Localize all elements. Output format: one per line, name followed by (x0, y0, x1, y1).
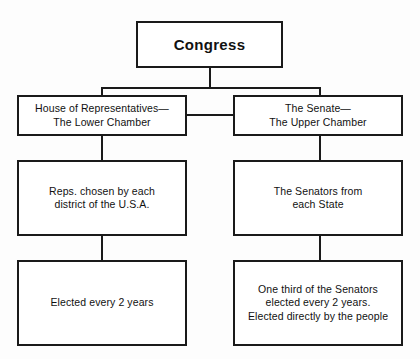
connector-branch-bar (101, 87, 321, 89)
node-house-members: Reps. chosen by each district of the U.S… (17, 160, 187, 236)
node-house-terms-label: Elected every 2 years (45, 296, 158, 310)
connector-senate-to-members (319, 135, 321, 161)
congress-org-chart: Congress House of Representatives— The L… (0, 0, 420, 359)
node-senate: The Senate— The Upper Chamber (233, 95, 403, 136)
node-congress: Congress (136, 21, 283, 68)
node-senate-members-label: The Senators from each State (269, 185, 368, 212)
connector-senate-members-to-terms (319, 235, 321, 261)
connector-house-senate-link (186, 114, 234, 116)
node-house-of-representatives: House of Representatives— The Lower Cham… (17, 95, 187, 136)
node-house-terms: Elected every 2 years (17, 260, 187, 346)
node-house-label: House of Representatives— The Lower Cham… (30, 102, 174, 129)
node-senate-members: The Senators from each State (233, 160, 403, 236)
connector-house-members-to-terms (101, 235, 103, 261)
node-senate-label: The Senate— The Upper Chamber (264, 102, 371, 129)
connector-congress-stem (209, 68, 211, 88)
connector-house-to-members (101, 135, 103, 161)
node-house-members-label: Reps. chosen by each district of the U.S… (44, 185, 160, 212)
node-senate-terms: One third of the Senators elected every … (233, 260, 403, 346)
node-senate-terms-label: One third of the Senators elected every … (243, 283, 393, 324)
node-congress-label: Congress (169, 36, 251, 54)
